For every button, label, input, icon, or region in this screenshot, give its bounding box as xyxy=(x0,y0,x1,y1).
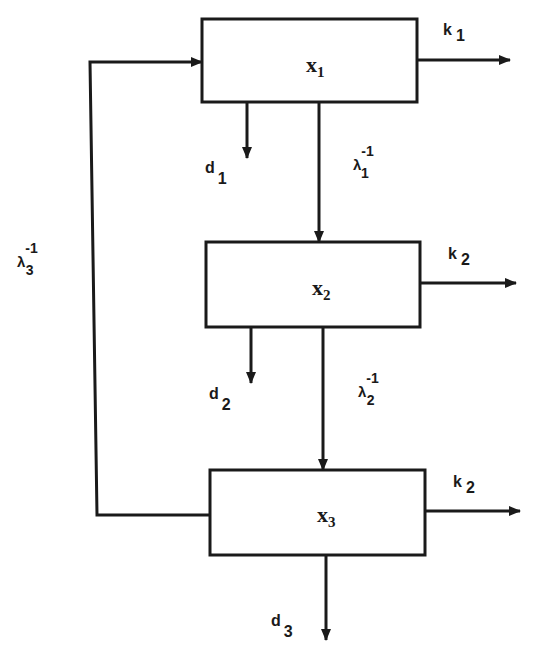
box-x1-label: x xyxy=(306,52,317,77)
label-lambda2: λ-12 xyxy=(358,370,379,408)
label-d2: d2 xyxy=(209,385,231,413)
label-lambda3: λ-13 xyxy=(17,240,38,278)
label-k1: k1 xyxy=(443,21,465,44)
label-lambda1: λ-11 xyxy=(353,143,374,181)
svg-text:x2: x2 xyxy=(312,275,331,303)
label-k2: k2 xyxy=(448,245,470,268)
arrow-lambda3-feedback xyxy=(90,62,210,515)
svg-text:x3: x3 xyxy=(317,502,336,530)
box-x2-label: x xyxy=(312,275,323,300)
label-k3: k2 xyxy=(453,473,475,496)
label-d3: d3 xyxy=(271,612,293,640)
svg-text:x1: x1 xyxy=(306,52,325,80)
box-x3-label: x xyxy=(317,502,328,527)
compartment-diagram: x1 x2 x3 k1 k2 k2 d1 d2 d3 λ-11 λ-12 λ-1… xyxy=(0,0,534,660)
label-d1: d1 xyxy=(205,159,227,187)
